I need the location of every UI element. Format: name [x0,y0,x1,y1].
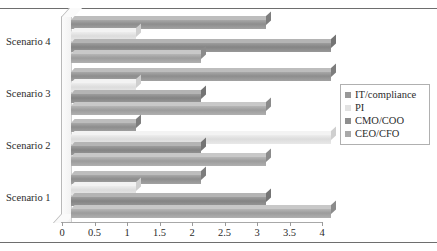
bar-side-face [331,200,336,214]
bar-side-face [331,126,336,140]
x-axis-tick-label: 1 [109,227,145,238]
legend-label-it-compliance: IT/compliance [355,88,416,101]
x-axis-tick [62,222,63,226]
x-axis-tick-label: 3 [239,227,275,238]
bar-front-face [71,54,201,63]
bar-side-face [136,75,141,89]
legend-label-pi: PI [355,101,364,114]
bar-side-face [266,12,271,26]
bar-ceo-cfo [71,209,331,218]
category-label-scenario-3: Scenario 3 [6,88,62,99]
bar-group-scenario-3 [62,68,322,120]
x-axis-tick-label: 2 [174,227,210,238]
bar-side-face [201,46,206,60]
x-axis-tick [257,222,258,226]
bar-ceo-cfo [71,157,266,166]
x-axis-tick-label: 0 [44,227,80,238]
x-axis-tick-label: 1.5 [142,227,178,238]
bar-side-face [266,189,271,203]
legend-item-ceo-cfo[interactable]: CEO/CFO [345,127,425,140]
bar-side-face [136,115,141,129]
bar-group-scenario-1 [62,171,322,223]
bar-front-face [71,209,331,218]
bar-front-face [71,157,266,166]
bar-group-scenario-4 [62,16,322,68]
legend-item-it-compliance[interactable]: IT/compliance [345,88,425,101]
bar-ceo-cfo [71,106,266,115]
bar-side-face [331,63,336,77]
legend-swatch-icon-it-compliance [345,92,351,98]
bar-side-face [266,97,271,111]
category-label-scenario-4: Scenario 4 [6,36,62,47]
plot-area [62,16,322,222]
x-axis-tick-label: 2.5 [207,227,243,238]
bar-side-face [266,149,271,163]
bar-ceo-cfo [71,54,201,63]
chart-legend: IT/compliance PI CMO/COO CEO/CFO [340,84,430,145]
bar-front-face [71,106,266,115]
legend-item-pi[interactable]: PI [345,101,425,114]
x-axis-tick [322,222,323,226]
figure-top-rule [0,8,437,9]
bar-side-face [201,166,206,180]
legend-swatch-icon-pi [345,105,351,111]
category-label-scenario-2: Scenario 2 [6,140,62,151]
x-axis-tick [127,222,128,226]
bar-group-scenario-2 [62,119,322,171]
legend-swatch-icon-cmo-coo [345,118,351,124]
bar-side-face [331,34,336,48]
x-axis-tick [160,222,161,226]
legend-label-cmo-coo: CMO/COO [355,114,404,127]
category-label-scenario-1: Scenario 1 [6,192,62,203]
figure-bottom-rule [0,242,437,243]
x-axis-tick-label: 3.5 [272,227,308,238]
x-axis-tick-label: 0.5 [77,227,113,238]
legend-label-ceo-cfo: CEO/CFO [355,127,399,140]
bar-side-face [201,86,206,100]
x-axis: 00.511.522.533.54 [62,222,322,242]
x-axis-tick-label: 4 [304,227,340,238]
x-axis-tick [192,222,193,226]
bar-side-face [136,178,141,192]
x-axis-tick [290,222,291,226]
figure-container: Scenario 4 Scenario 3 Scenario 2 Scenari… [0,0,437,251]
legend-item-cmo-coo[interactable]: CMO/COO [345,114,425,127]
x-axis-tick [225,222,226,226]
x-axis-tick [95,222,96,226]
legend-swatch-icon-ceo-cfo [345,131,351,137]
